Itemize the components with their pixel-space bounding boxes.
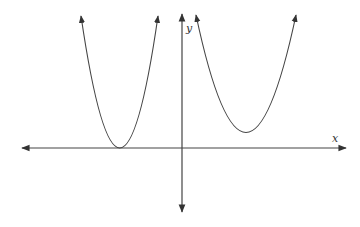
right-parabola: [196, 15, 296, 133]
x-axis-label: x: [332, 132, 339, 145]
y-axis-label: y: [185, 22, 193, 35]
left-parabola: [81, 16, 158, 148]
coordinate-plane: y x: [0, 0, 360, 227]
